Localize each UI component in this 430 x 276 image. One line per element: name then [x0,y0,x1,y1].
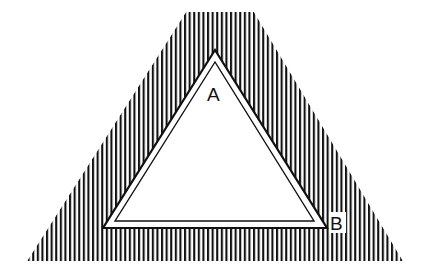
vertex-label-a: A [207,84,220,105]
vertex-label-b: B [330,213,343,234]
diagram-canvas: A B [0,0,430,276]
